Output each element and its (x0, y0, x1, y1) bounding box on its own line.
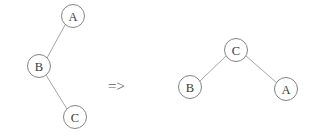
edge-c-to-a (246, 56, 277, 83)
node-c-before[interactable]: C (64, 106, 87, 129)
node-a-after[interactable]: A (275, 78, 298, 101)
edge-b-to-a (47, 25, 65, 58)
node-c-after[interactable]: C (225, 39, 248, 62)
node-b-before[interactable]: B (28, 55, 51, 78)
before-tree: A B C (28, 5, 87, 129)
node-label-c-before: C (71, 111, 79, 125)
node-label-b-after: B (186, 81, 194, 95)
node-label-a-after: A (281, 83, 290, 97)
node-label-a-before: A (68, 10, 77, 24)
node-label-c-after: C (232, 44, 240, 58)
edge-c-to-b (200, 56, 226, 81)
transformation-arrow: => (108, 79, 125, 94)
node-b-after[interactable]: B (179, 76, 202, 99)
edge-b-to-c (46, 75, 67, 109)
node-label-b-before: B (35, 60, 43, 74)
after-tree: C B A (179, 39, 298, 101)
tree-rotation-diagram: A B C C B (0, 0, 317, 138)
node-a-before[interactable]: A (62, 5, 85, 28)
tree-diagram-canvas: A B C C B (0, 0, 317, 138)
